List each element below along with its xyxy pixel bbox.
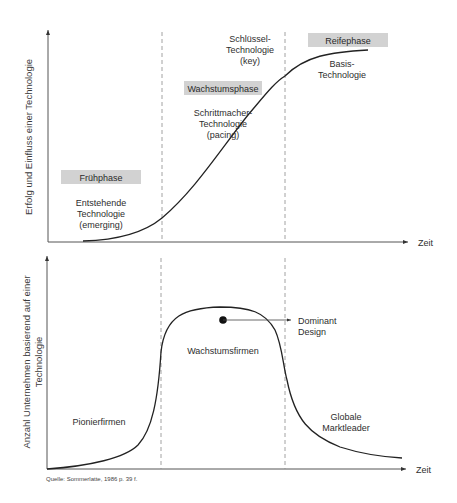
svg-text:Technologie: Technologie (199, 119, 247, 129)
svg-text:(emerging): (emerging) (79, 220, 123, 230)
bottom-y-axis-label-line2: Technologie (33, 337, 44, 388)
svg-text:Technologie: Technologie (318, 70, 366, 80)
phase-mature: Reifephase (308, 33, 388, 47)
svg-text:Entstehende: Entstehende (76, 198, 127, 208)
svg-text:Marktleader: Marktleader (322, 423, 370, 433)
phase-early: Frühphase (61, 170, 141, 184)
top-x-axis-label: Zeit (418, 238, 434, 248)
technology-lifecycle-diagram: Zeit Erfolg und Einfluss einer Technolog… (0, 0, 457, 503)
svg-text:(pacing): (pacing) (207, 130, 240, 140)
region-global: Globale Marktleader (322, 412, 370, 433)
svg-text:Globale: Globale (330, 412, 361, 422)
annotation-basis: Basis- Technologie (318, 59, 366, 80)
annotation-pacing: Schrittmacher- Technologie (pacing) (194, 108, 253, 140)
phase-mature-label: Reifephase (325, 36, 371, 46)
source-note: Quelle: Sommerlatte, 1986 p. 39 f. (46, 476, 138, 482)
svg-text:Dominant: Dominant (298, 316, 337, 326)
region-growth: Wachstumsfirmen (187, 346, 259, 356)
bottom-chart: Zeit Anzahl Unternehmen basierend auf ei… (21, 256, 432, 475)
companies-curve (47, 307, 402, 469)
phase-growth: Wachstumsphase (184, 81, 262, 95)
svg-text:Technologie: Technologie (77, 209, 125, 219)
annotation-emerging: Entstehende Technologie (emerging) (76, 198, 127, 230)
dominant-design-marker: Dominant Design (219, 316, 337, 337)
annotation-key: Schlüssel- Technologie (key) (226, 34, 274, 66)
svg-text:Basis-: Basis- (329, 59, 354, 69)
svg-text:Schrittmacher-: Schrittmacher- (194, 108, 253, 118)
bottom-y-axis-label-line1: Anzahl Unternehmen basierend auf einer (21, 275, 32, 448)
top-y-axis-label: Erfolg und Einfluss einer Technologie (23, 59, 34, 215)
region-pioneer: Pionierfirmen (72, 417, 125, 427)
phase-early-label: Frühphase (79, 173, 122, 183)
svg-text:Technologie: Technologie (226, 45, 274, 55)
bottom-x-axis-label: Zeit (416, 465, 432, 475)
svg-text:Schlüssel-: Schlüssel- (229, 34, 271, 44)
svg-text:(key): (key) (240, 56, 260, 66)
top-chart: Zeit Erfolg und Einfluss einer Technolog… (23, 30, 434, 248)
phase-growth-label: Wachstumsphase (187, 84, 258, 94)
svg-text:Design: Design (298, 327, 326, 337)
